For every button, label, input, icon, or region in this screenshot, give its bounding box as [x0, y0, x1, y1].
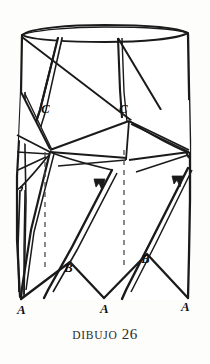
top-rim-group — [22, 25, 188, 42]
caption-word: DIBUJO — [72, 329, 117, 341]
label-c-right: C — [119, 101, 128, 116]
caption-number: 26 — [122, 326, 138, 342]
right-outline — [188, 34, 190, 298]
pleat-diagram-illustration: C C B B A A A — [0, 0, 210, 320]
label-b-left: B — [63, 260, 73, 275]
figure-page: C C B B A A A DIBUJO 26 — [0, 0, 210, 364]
label-b-right: B — [140, 251, 150, 266]
label-a-left: A — [16, 302, 26, 317]
figure-caption: DIBUJO 26 — [0, 326, 210, 343]
label-a-mid: A — [99, 301, 109, 316]
label-a-right: A — [180, 299, 190, 314]
label-c-left: C — [41, 101, 50, 116]
